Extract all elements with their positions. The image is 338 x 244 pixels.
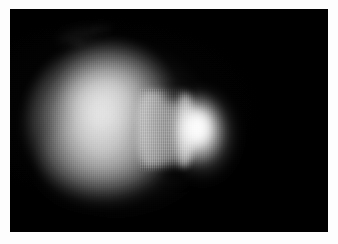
right-lobe-core: [182, 105, 216, 151]
figure-caption: [0, 0, 1, 1]
image-plate: [10, 9, 328, 232]
figure-root: [0, 0, 338, 244]
